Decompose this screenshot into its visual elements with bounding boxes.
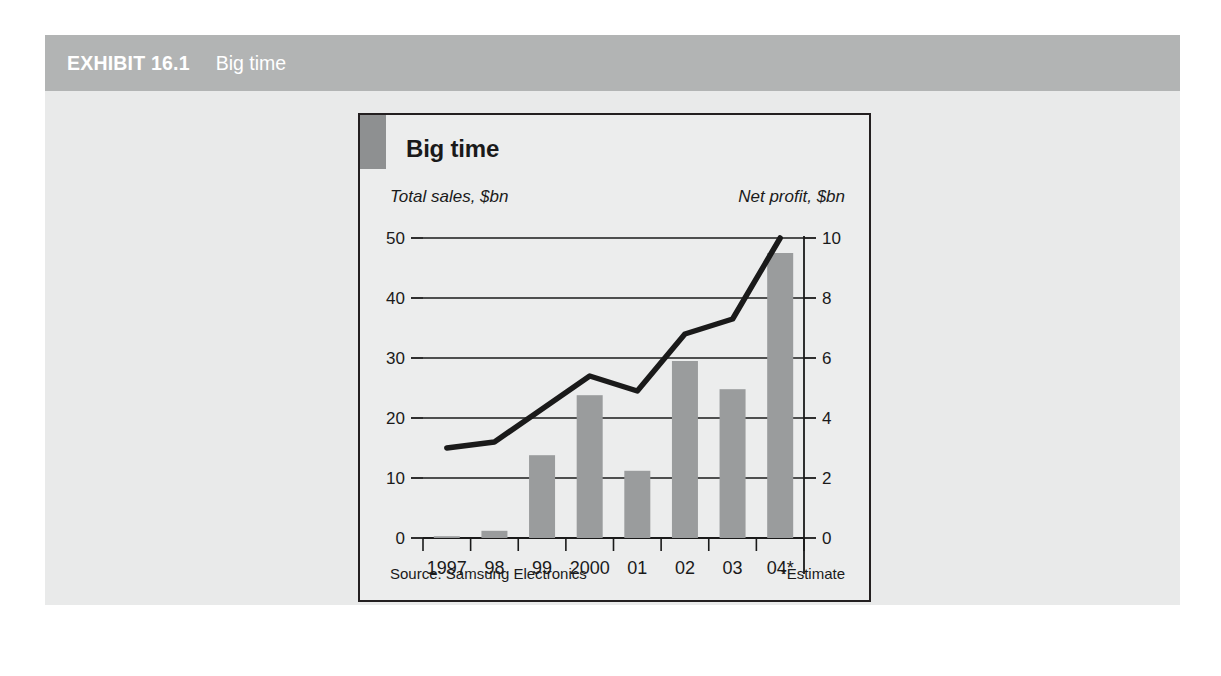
- x-axis-tick-label: 02: [675, 558, 695, 578]
- exhibit-title-label: Big time: [216, 52, 286, 75]
- exhibit-number-label: EXHIBIT 16.1: [67, 52, 190, 75]
- x-axis-tick-label: 01: [627, 558, 647, 578]
- bar: [720, 389, 746, 538]
- right-axis-tick-label: 10: [822, 229, 841, 248]
- right-axis-tick-label: 8: [822, 289, 831, 308]
- bar: [624, 471, 650, 538]
- chart-svg: 01020304050024681019979899200001020304*: [360, 115, 869, 600]
- bar: [767, 253, 793, 538]
- bar: [529, 455, 555, 538]
- x-axis-tick-label: 03: [723, 558, 743, 578]
- left-axis-tick-label: 40: [386, 289, 405, 308]
- plot-area: 01020304050024681019979899200001020304*: [360, 115, 869, 600]
- right-axis-tick-label: 6: [822, 349, 831, 368]
- left-axis-tick-label: 0: [396, 529, 405, 548]
- chart-card: Big time Total sales, $bn Net profit, $b…: [358, 113, 871, 602]
- exhibit-header-band: EXHIBIT 16.1 Big time: [45, 35, 1180, 91]
- source-note: Source: Samsung Electronics: [390, 565, 587, 582]
- left-axis-tick-label: 20: [386, 409, 405, 428]
- left-axis-tick-label: 50: [386, 229, 405, 248]
- bar: [434, 536, 460, 538]
- bar: [481, 531, 507, 538]
- right-axis-tick-label: 2: [822, 469, 831, 488]
- exhibit-page: EXHIBIT 16.1 Big time Big time Total sal…: [0, 0, 1221, 676]
- left-axis-tick-label: 30: [386, 349, 405, 368]
- estimate-footnote: *Estimate: [781, 565, 845, 582]
- right-axis-tick-label: 4: [822, 409, 831, 428]
- bar: [577, 395, 603, 538]
- left-axis-tick-label: 10: [386, 469, 405, 488]
- bar: [672, 361, 698, 538]
- right-axis-tick-label: 0: [822, 529, 831, 548]
